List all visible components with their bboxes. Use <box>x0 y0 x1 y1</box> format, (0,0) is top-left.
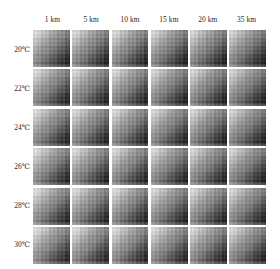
heatmap-tile <box>151 148 188 185</box>
heatmap-tile <box>190 69 227 106</box>
heatmap-tile <box>112 188 149 225</box>
row-label-22c: 22℃ <box>2 69 32 108</box>
heatmap-tile-edge-highlight <box>33 69 70 106</box>
heatmap-tile-edge-highlight <box>72 30 109 67</box>
heatmap-tile-edge-highlight <box>229 227 266 264</box>
heatmap-tile-edge-highlight <box>229 30 266 67</box>
heatmap-tile <box>229 188 266 225</box>
heatmap-tile <box>112 30 149 67</box>
heatmap-tile-edge-highlight <box>33 30 70 67</box>
heatmap-tile <box>190 148 227 185</box>
heatmap-tile-edge-highlight <box>112 109 149 146</box>
heatmap-tile <box>72 227 109 264</box>
heatmap-tile <box>72 109 109 146</box>
heatmap-tile-edge-highlight <box>190 69 227 106</box>
column-header-10km: 10 km <box>111 13 150 27</box>
heatmap-grid <box>33 30 266 264</box>
column-header-35km: 35 km <box>227 13 266 27</box>
heatmap-tile-edge-highlight <box>151 69 188 106</box>
heatmap-tile <box>151 188 188 225</box>
row-label-30c: 30℃ <box>2 225 32 264</box>
row-label-28c: 28℃ <box>2 186 32 225</box>
heatmap-tile-edge-highlight <box>33 227 70 264</box>
heatmap-tile-edge-highlight <box>151 188 188 225</box>
column-header-5km: 5 km <box>72 13 111 27</box>
heatmap-tile <box>229 69 266 106</box>
heatmap-tile <box>33 30 70 67</box>
heatmap-tile-edge-highlight <box>229 109 266 146</box>
heatmap-tile <box>229 109 266 146</box>
heatmap-tile-edge-highlight <box>112 69 149 106</box>
heatmap-tile <box>72 30 109 67</box>
heatmap-tile-edge-highlight <box>229 148 266 185</box>
row-label-26c: 26℃ <box>2 147 32 186</box>
heatmap-tile-edge-highlight <box>229 188 266 225</box>
heatmap-tile-edge-highlight <box>33 148 70 185</box>
heatmap-tile <box>229 30 266 67</box>
heatmap-tile <box>33 148 70 185</box>
heatmap-tile-edge-highlight <box>190 148 227 185</box>
heatmap-tile <box>112 69 149 106</box>
heatmap-tile <box>229 148 266 185</box>
heatmap-tile-edge-highlight <box>151 109 188 146</box>
heatmap-tile-edge-highlight <box>190 227 227 264</box>
heatmap-tile-edge-highlight <box>151 227 188 264</box>
heatmap-tile <box>190 109 227 146</box>
heatmap-tile-edge-highlight <box>72 188 109 225</box>
heatmap-tile <box>190 227 227 264</box>
column-header-row: 1 km 5 km 10 km 15 km 20 km 35 km <box>33 13 266 27</box>
heatmap-tile <box>33 109 70 146</box>
heatmap-tile-edge-highlight <box>112 148 149 185</box>
column-header-15km: 15 km <box>149 13 188 27</box>
heatmap-tile-edge-highlight <box>72 148 109 185</box>
heatmap-tile <box>72 188 109 225</box>
heatmap-tile-edge-highlight <box>112 188 149 225</box>
heatmap-tile-edge-highlight <box>72 69 109 106</box>
heatmap-tile <box>33 227 70 264</box>
heatmap-tile-edge-highlight <box>229 69 266 106</box>
heatmap-tile-edge-highlight <box>33 109 70 146</box>
heatmap-tile-edge-highlight <box>112 227 149 264</box>
heatmap-tile <box>72 69 109 106</box>
heatmap-tile <box>229 227 266 264</box>
heatmap-tile-edge-highlight <box>72 109 109 146</box>
heatmap-tile-edge-highlight <box>190 188 227 225</box>
heatmap-tile <box>112 148 149 185</box>
heatmap-tile-edge-highlight <box>72 227 109 264</box>
row-label-column: 20℃ 22℃ 24℃ 26℃ 28℃ 30℃ <box>2 30 32 264</box>
heatmap-tile <box>190 30 227 67</box>
heatmap-tile-edge-highlight <box>190 30 227 67</box>
heatmap-tile <box>151 227 188 264</box>
heatmap-tile-edge-highlight <box>33 188 70 225</box>
row-label-20c: 20℃ <box>2 30 32 69</box>
heatmap-panel-figure: 1 km 5 km 10 km 15 km 20 km 35 km 20℃ 22… <box>0 0 280 269</box>
heatmap-tile-edge-highlight <box>151 148 188 185</box>
heatmap-tile <box>151 69 188 106</box>
heatmap-tile <box>33 188 70 225</box>
column-header-20km: 20 km <box>188 13 227 27</box>
heatmap-tile-edge-highlight <box>151 30 188 67</box>
heatmap-tile <box>151 109 188 146</box>
heatmap-tile-edge-highlight <box>190 109 227 146</box>
heatmap-tile <box>190 188 227 225</box>
column-header-1km: 1 km <box>33 13 72 27</box>
heatmap-tile <box>151 30 188 67</box>
heatmap-tile-edge-highlight <box>112 30 149 67</box>
row-label-24c: 24℃ <box>2 108 32 147</box>
heatmap-tile <box>112 227 149 264</box>
heatmap-tile <box>33 69 70 106</box>
heatmap-tile <box>72 148 109 185</box>
heatmap-tile <box>112 109 149 146</box>
